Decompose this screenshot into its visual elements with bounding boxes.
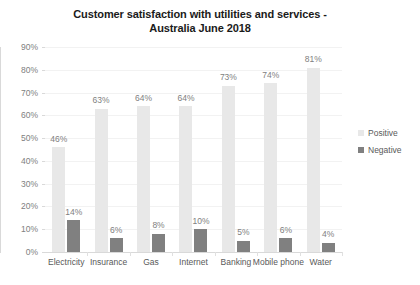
bar-value-label: 8% bbox=[146, 221, 171, 230]
y-axis-tick-labels: 90%80%70%60%50%40%30%20%10%0% bbox=[0, 0, 40, 285]
x-axis-tick-mark bbox=[172, 252, 173, 256]
bar-group: 64%10% bbox=[172, 47, 214, 252]
bar-positive[interactable] bbox=[52, 147, 65, 252]
bar-negative[interactable] bbox=[152, 234, 165, 252]
bar-positive[interactable] bbox=[179, 106, 192, 252]
x-axis-line bbox=[45, 252, 342, 253]
x-axis-tick-mark bbox=[257, 252, 258, 256]
bar-value-label: 81% bbox=[301, 55, 326, 64]
bar-value-label: 74% bbox=[258, 71, 283, 80]
legend-item[interactable]: Negative bbox=[358, 145, 418, 155]
bar-negative[interactable] bbox=[237, 241, 250, 252]
y-axis-tick-mark bbox=[42, 206, 45, 207]
chart-legend: PositiveNegative bbox=[358, 128, 418, 162]
y-axis-tick-mark bbox=[42, 184, 45, 185]
bar-group: 46%14% bbox=[45, 47, 87, 252]
bar-positive[interactable] bbox=[137, 106, 150, 252]
y-axis-tick-label: 10% bbox=[0, 225, 38, 234]
bar-value-label: 63% bbox=[89, 96, 114, 105]
x-axis-tick-mark bbox=[215, 252, 216, 256]
x-axis-tick-mark bbox=[87, 252, 88, 256]
bar-negative[interactable] bbox=[279, 238, 292, 252]
x-axis-tick-mark bbox=[130, 252, 131, 256]
legend-swatch-icon bbox=[358, 130, 364, 136]
bar-group: 63%6% bbox=[87, 47, 129, 252]
bar-value-label: 46% bbox=[46, 135, 71, 144]
bar-negative[interactable] bbox=[322, 243, 335, 252]
y-axis-tick-label: 70% bbox=[0, 89, 38, 98]
y-axis-tick-label: 20% bbox=[0, 202, 38, 211]
bar-positive[interactable] bbox=[307, 68, 320, 253]
legend-swatch-icon bbox=[358, 147, 364, 153]
y-axis-tick-mark bbox=[42, 93, 45, 94]
y-axis-tick-label: 80% bbox=[0, 66, 38, 75]
bar-group: 73%5% bbox=[215, 47, 257, 252]
legend-label: Positive bbox=[368, 129, 398, 138]
y-axis-tick-mark bbox=[42, 252, 45, 253]
y-axis-tick-mark bbox=[42, 138, 45, 139]
legend-label: Negative bbox=[368, 146, 402, 155]
chart-title-line-2: Australia June 2018 bbox=[50, 21, 350, 35]
chart-container: Customer satisfaction with utilities and… bbox=[0, 0, 420, 285]
chart-title: Customer satisfaction with utilities and… bbox=[50, 7, 350, 35]
bar-value-label: 4% bbox=[316, 230, 341, 239]
bar-value-label: 5% bbox=[231, 228, 256, 237]
bar-negative[interactable] bbox=[194, 229, 207, 252]
bar-group: 74%6% bbox=[257, 47, 299, 252]
y-axis-tick-mark bbox=[42, 47, 45, 48]
y-axis-tick-label: 0% bbox=[0, 248, 38, 257]
bar-positive[interactable] bbox=[222, 86, 235, 252]
bar-group: 64%8% bbox=[130, 47, 172, 252]
bar-value-label: 64% bbox=[131, 94, 156, 103]
bar-value-label: 64% bbox=[173, 94, 198, 103]
y-axis-line bbox=[0, 47, 1, 253]
y-axis-tick-label: 30% bbox=[0, 180, 38, 189]
chart-title-line-1: Customer satisfaction with utilities and… bbox=[73, 8, 326, 20]
x-axis-category-label: Water bbox=[294, 257, 348, 267]
bar-value-label: 73% bbox=[216, 73, 241, 82]
y-axis-tick-mark bbox=[42, 229, 45, 230]
y-axis-tick-mark bbox=[42, 70, 45, 71]
legend-item[interactable]: Positive bbox=[358, 128, 418, 138]
y-axis-tick-label: 50% bbox=[0, 134, 38, 143]
bar-negative[interactable] bbox=[110, 238, 123, 252]
plot-area: 46%14%63%6%64%8%64%10%73%5%74%6%81%4% bbox=[45, 47, 342, 252]
bar-value-label: 6% bbox=[273, 226, 298, 235]
y-axis-tick-label: 60% bbox=[0, 111, 38, 120]
x-axis-tick-mark bbox=[300, 252, 301, 256]
bar-value-label: 14% bbox=[61, 208, 86, 217]
y-axis-tick-label: 40% bbox=[0, 157, 38, 166]
y-axis-tick-mark bbox=[42, 115, 45, 116]
y-axis-tick-label: 90% bbox=[0, 43, 38, 52]
bar-value-label: 10% bbox=[188, 217, 213, 226]
bar-group: 81%4% bbox=[300, 47, 342, 252]
bar-value-label: 6% bbox=[104, 226, 129, 235]
x-axis-tick-mark bbox=[342, 252, 343, 256]
bar-negative[interactable] bbox=[67, 220, 80, 252]
y-axis-tick-mark bbox=[42, 161, 45, 162]
